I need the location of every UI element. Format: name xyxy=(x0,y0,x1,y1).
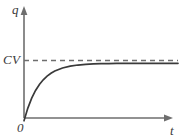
charging-curve xyxy=(24,63,178,121)
plot-area xyxy=(0,0,181,139)
y-axis-label: q xyxy=(12,3,19,16)
x-axis-label: t xyxy=(170,124,174,137)
y-axis-arrowhead xyxy=(21,6,28,15)
y-axis xyxy=(21,6,28,118)
origin-label: 0 xyxy=(17,121,24,134)
x-axis-arrowhead xyxy=(164,115,173,122)
asymptote-label-cv: CV xyxy=(3,53,20,66)
graph-figure: q CV 0 t xyxy=(0,0,181,139)
x-axis xyxy=(24,115,173,122)
